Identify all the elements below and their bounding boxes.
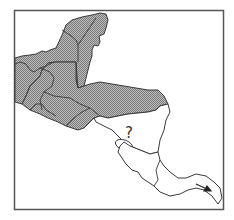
map-figure: ? [0,0,234,220]
central-america-map: ? [0,0,234,220]
question-mark-annotation: ? [125,124,133,142]
